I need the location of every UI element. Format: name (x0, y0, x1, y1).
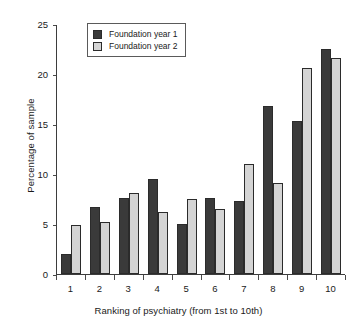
bar-group (172, 25, 201, 274)
x-axis-tick-mark (201, 275, 202, 280)
bar-foundation-year-1-2 (90, 207, 100, 274)
bar-foundation-year-2-1 (71, 225, 81, 274)
x-axis-ticks (56, 275, 345, 281)
bar-group (230, 25, 259, 274)
bar-foundation-year-2-6 (215, 209, 225, 274)
x-axis-tick-label: 3 (114, 283, 143, 294)
x-axis-tick-mark (114, 275, 115, 280)
bar-foundation-year-1-10 (321, 49, 331, 274)
x-axis-tick-mark (229, 275, 230, 280)
x-axis-tick-label: 5 (172, 283, 201, 294)
bar-group (287, 25, 316, 274)
y-axis-tick-label: 0 (43, 269, 48, 280)
legend-swatch (93, 30, 102, 39)
y-axis-tick-label: 25 (37, 19, 48, 30)
bar-foundation-year-1-8 (263, 106, 273, 274)
bar-foundation-year-1-6 (205, 198, 215, 274)
legend-label: Foundation year 1 (109, 29, 178, 39)
x-axis-tick-mark (316, 275, 317, 280)
y-axis: 0510152025 (0, 0, 57, 335)
x-axis-tick-label: 1 (56, 283, 85, 294)
bar-foundation-year-1-9 (292, 121, 302, 274)
bar-foundation-year-2-8 (273, 183, 283, 274)
x-axis-tick-labels: 12345678910 (56, 283, 345, 294)
x-axis-tick-label: 7 (229, 283, 258, 294)
bars-layer (57, 25, 345, 274)
chart-legend: Foundation year 1Foundation year 2 (87, 23, 186, 57)
x-axis-tick-label: 4 (143, 283, 172, 294)
legend-label: Foundation year 2 (109, 41, 178, 51)
plot-area (56, 25, 345, 275)
bar-foundation-year-2-3 (129, 193, 139, 274)
bar-foundation-year-1-5 (177, 224, 187, 274)
bar-foundation-year-2-4 (158, 212, 168, 274)
bar-foundation-year-2-9 (302, 68, 312, 274)
x-axis-tick-mark (172, 275, 173, 280)
bar-foundation-year-1-7 (234, 201, 244, 274)
x-axis-tick-label: 8 (258, 283, 287, 294)
legend-item: Foundation year 2 (93, 40, 178, 52)
x-axis-tick-mark (56, 275, 57, 280)
x-axis-tick-mark (143, 275, 144, 280)
bar-foundation-year-2-10 (331, 58, 341, 274)
bar-group (86, 25, 115, 274)
y-axis-tick-label: 20 (37, 69, 48, 80)
legend-swatch (93, 42, 102, 51)
bar-group (115, 25, 144, 274)
x-axis-tick-mark (258, 275, 259, 280)
bar-group (201, 25, 230, 274)
y-axis-tick-label: 15 (37, 119, 48, 130)
x-axis-tick-label: 6 (201, 283, 230, 294)
legend-item: Foundation year 1 (93, 28, 178, 40)
x-axis-tick-label: 9 (287, 283, 316, 294)
x-axis-tick-label: 10 (316, 283, 345, 294)
bar-foundation-year-2-2 (100, 222, 110, 274)
bar-foundation-year-1-3 (119, 198, 129, 274)
x-axis-tick-label: 2 (85, 283, 114, 294)
bar-chart-figure: Percentage of sample 0510152025 12345678… (0, 0, 357, 335)
x-axis-tick-mark (345, 275, 346, 280)
bar-foundation-year-1-4 (148, 179, 158, 274)
y-axis-tick-label: 5 (43, 219, 48, 230)
bar-group (143, 25, 172, 274)
y-axis-tick-label: 10 (37, 169, 48, 180)
x-axis-tick-mark (287, 275, 288, 280)
bar-group (57, 25, 86, 274)
bar-foundation-year-2-5 (187, 199, 197, 274)
x-axis-tick-mark (85, 275, 86, 280)
bar-foundation-year-2-7 (244, 164, 254, 274)
x-axis-title: Ranking of psychiatry (from 1st to 10th) (0, 305, 357, 316)
bar-group (259, 25, 288, 274)
bar-group (316, 25, 345, 274)
bar-foundation-year-1-1 (61, 254, 71, 274)
